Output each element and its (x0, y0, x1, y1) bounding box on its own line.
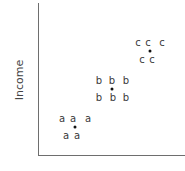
point-marker-b: b (123, 76, 129, 86)
point-marker-a: a (63, 131, 69, 141)
point-marker-b: b (96, 93, 102, 103)
point-marker-c: c (135, 38, 141, 48)
centroid-dot-b (111, 88, 114, 91)
x-axis (38, 155, 185, 156)
point-marker-c: c (139, 55, 145, 65)
point-marker-a: a (70, 114, 76, 124)
point-marker-b: b (110, 93, 116, 103)
point-marker-b: b (109, 76, 115, 86)
point-marker-b: b (123, 93, 129, 103)
point-marker-c: c (159, 38, 165, 48)
point-marker-c: c (145, 38, 151, 48)
y-axis (38, 3, 39, 156)
centroid-dot-a (74, 126, 77, 129)
centroid-dot-c (149, 50, 152, 53)
point-marker-b: b (96, 76, 102, 86)
point-marker-c: c (149, 55, 155, 65)
point-marker-a: a (74, 131, 80, 141)
y-axis-label: Income (13, 60, 26, 100)
point-marker-a: a (59, 114, 65, 124)
scatter-plot: Income aaaaabbbbbbccccc (0, 0, 185, 171)
point-marker-a: a (85, 114, 91, 124)
